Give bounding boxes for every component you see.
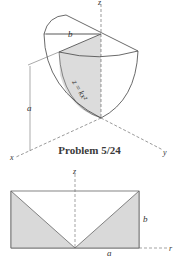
label-r: r [169,244,173,253]
label-z2: z [72,167,77,176]
label-a2: a [107,248,112,257]
label-b: b [68,29,73,39]
label-b2: b [143,214,148,224]
figure-3d-paraboloid: b z a x y z = kx² z b a r [0,0,179,257]
paraboloid-right [101,51,138,118]
label-a: a [27,103,32,113]
figure-caption: Problem 5/24 [0,144,179,156]
figure-2d-section: z b a r [11,167,173,257]
